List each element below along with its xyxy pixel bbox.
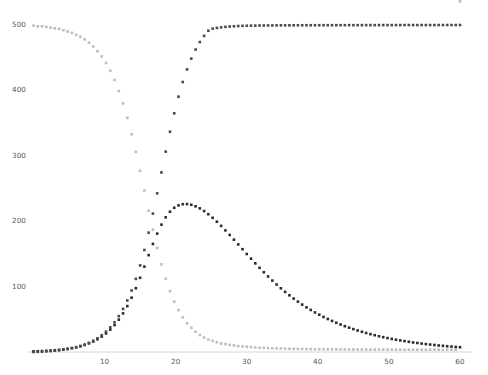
data-point xyxy=(199,207,202,210)
data-point xyxy=(147,209,150,212)
y-tick-label: 100 xyxy=(2,283,26,290)
data-point xyxy=(301,348,304,351)
series-markers-layer xyxy=(32,0,461,353)
data-point xyxy=(258,346,261,349)
data-point xyxy=(446,348,449,351)
data-point xyxy=(318,313,321,316)
data-point xyxy=(352,24,355,27)
data-point xyxy=(135,287,138,290)
data-point xyxy=(126,299,129,302)
data-point xyxy=(335,24,338,27)
data-point xyxy=(454,348,457,351)
data-point xyxy=(211,340,214,343)
data-point xyxy=(459,0,462,3)
data-point xyxy=(92,45,95,48)
data-point xyxy=(403,24,406,27)
data-point xyxy=(378,24,381,27)
y-tick-label: 400 xyxy=(2,87,26,94)
data-point xyxy=(331,320,334,323)
data-point xyxy=(318,348,321,351)
data-point xyxy=(459,346,462,349)
data-point xyxy=(454,346,457,349)
data-point xyxy=(267,275,270,278)
data-point xyxy=(284,347,287,350)
data-point xyxy=(416,24,419,27)
data-point xyxy=(83,343,86,346)
series-infected xyxy=(32,203,461,353)
data-point xyxy=(429,24,432,27)
data-point xyxy=(207,338,210,341)
data-point xyxy=(169,290,172,293)
data-point xyxy=(446,345,449,348)
data-point xyxy=(369,24,372,27)
data-point xyxy=(156,247,159,250)
data-point xyxy=(305,348,308,351)
data-point xyxy=(233,238,236,241)
data-point xyxy=(318,24,321,27)
data-point xyxy=(352,328,355,331)
data-point xyxy=(96,337,99,340)
data-point xyxy=(322,24,325,27)
data-point xyxy=(416,342,419,345)
data-point xyxy=(326,318,329,321)
data-point xyxy=(450,24,453,27)
data-point xyxy=(373,348,376,351)
data-point xyxy=(297,300,300,303)
data-point xyxy=(288,24,291,27)
data-point xyxy=(395,348,398,351)
x-tick-label: 30 xyxy=(242,358,251,365)
data-point xyxy=(237,345,240,348)
data-point xyxy=(344,24,347,27)
data-point xyxy=(139,276,142,279)
data-point xyxy=(96,50,99,53)
data-point xyxy=(139,264,142,267)
data-point xyxy=(326,24,329,27)
data-point xyxy=(45,26,48,29)
data-point xyxy=(207,213,210,216)
data-point xyxy=(250,257,253,260)
data-point xyxy=(450,345,453,348)
data-point xyxy=(301,24,304,27)
data-point xyxy=(309,309,312,312)
data-point xyxy=(135,278,138,281)
data-point xyxy=(450,348,453,351)
data-point xyxy=(228,25,231,28)
data-point xyxy=(280,24,283,27)
data-point xyxy=(339,24,342,27)
data-point xyxy=(71,32,74,35)
data-point xyxy=(263,271,266,274)
data-point xyxy=(109,328,112,331)
data-point xyxy=(211,217,214,220)
data-point xyxy=(267,24,270,27)
data-point xyxy=(130,289,133,292)
data-point xyxy=(271,24,274,27)
data-point xyxy=(147,231,150,234)
data-point xyxy=(309,348,312,351)
data-point xyxy=(344,348,347,351)
data-point xyxy=(66,348,69,351)
data-point xyxy=(258,24,261,27)
data-point xyxy=(429,348,432,351)
data-point xyxy=(160,223,163,226)
data-point xyxy=(284,24,287,27)
data-point xyxy=(109,326,112,329)
data-point xyxy=(41,350,44,353)
data-point xyxy=(190,203,193,206)
data-point xyxy=(352,348,355,351)
data-point xyxy=(203,210,206,213)
data-point xyxy=(408,24,411,27)
data-point xyxy=(241,25,244,28)
plot-canvas xyxy=(0,0,488,375)
data-point xyxy=(220,225,223,228)
data-point xyxy=(160,263,163,266)
data-point xyxy=(412,348,415,351)
data-point xyxy=(254,262,257,265)
x-tick-label: 40 xyxy=(313,358,322,365)
data-point xyxy=(203,35,206,38)
data-point xyxy=(233,25,236,28)
y-tick-label: 300 xyxy=(2,152,26,159)
data-point xyxy=(263,24,266,27)
data-point xyxy=(45,350,48,353)
data-point xyxy=(220,26,223,29)
data-point xyxy=(186,203,189,206)
